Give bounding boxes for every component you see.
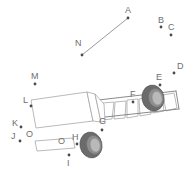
bumper-step [35, 138, 75, 151]
annotation-j[interactable]: J [11, 131, 21, 142]
annotation-dot-h[interactable] [76, 143, 79, 146]
annotation-label-i: I [67, 158, 70, 168]
annotation-label-o-right: O [58, 136, 65, 146]
diagram-canvas: A B C D E F [0, 0, 194, 184]
annotation-m[interactable]: M [31, 71, 39, 85]
annotation-dot-m[interactable] [34, 83, 37, 86]
annotation-dot-c[interactable] [170, 34, 173, 37]
bumper-outline [35, 138, 75, 151]
cab-side-panel [31, 92, 93, 128]
annotation-dot-n[interactable] [81, 54, 84, 57]
annotation-dot-k[interactable] [20, 126, 23, 129]
annotation-label-e: E [156, 72, 162, 82]
annotation-i[interactable]: I [67, 154, 70, 168]
annotation-label-m: M [31, 71, 39, 81]
vehicle-diagram: A B C D E F [0, 0, 194, 184]
annotation-dot-e[interactable] [159, 84, 162, 87]
annotation-o-right[interactable]: O [58, 136, 65, 146]
annotation-label-n: N [75, 38, 82, 48]
trailer-panel-9 [163, 93, 177, 111]
annotation-a[interactable]: A [125, 5, 131, 19]
cab-body [31, 92, 105, 128]
annotation-b[interactable]: B [158, 15, 164, 28]
annotation-label-h: H [72, 132, 79, 142]
annotation-label-l: L [23, 95, 28, 105]
annotation-label-f: F [130, 89, 136, 99]
annotation-label-c: C [168, 22, 175, 32]
annotation-dot-f[interactable] [132, 101, 135, 104]
annotation-label-k: K [12, 118, 18, 128]
front-wheel [78, 130, 105, 160]
trailer-panel-5 [114, 101, 126, 119]
annotation-dot-j[interactable] [19, 140, 22, 143]
leader-line-n-to-a [82, 18, 128, 55]
leader-lines-group [82, 18, 128, 55]
annotation-dot-a[interactable] [127, 17, 130, 20]
annotation-label-d: D [177, 61, 184, 71]
annotation-dot-i[interactable] [68, 154, 71, 157]
annotation-dot-g[interactable] [101, 129, 104, 132]
annotation-label-b: B [158, 15, 164, 25]
annotation-n[interactable]: N [75, 38, 83, 56]
annotation-g[interactable]: G [99, 116, 106, 131]
annotation-o-left[interactable]: O [26, 129, 33, 139]
annotation-dot-l[interactable] [30, 105, 33, 108]
annotation-label-j: J [11, 131, 16, 141]
annotation-label-o-left: O [26, 129, 33, 139]
annotation-d[interactable]: D [173, 61, 184, 74]
annotation-e[interactable]: E [156, 72, 162, 86]
annotation-label-a: A [125, 5, 131, 15]
annotation-label-g: G [99, 116, 106, 126]
annotation-k[interactable]: K [12, 118, 22, 128]
annotation-dot-b[interactable] [160, 26, 163, 29]
annotation-dot-d[interactable] [173, 72, 176, 75]
annotation-c[interactable]: C [168, 22, 175, 36]
